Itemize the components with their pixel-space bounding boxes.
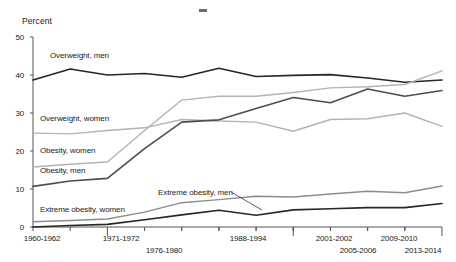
chart-plot-area bbox=[0, 0, 456, 262]
chart-figure: Percent 50 40 30 20 10 0 1960-1962 1971-… bbox=[0, 0, 456, 262]
